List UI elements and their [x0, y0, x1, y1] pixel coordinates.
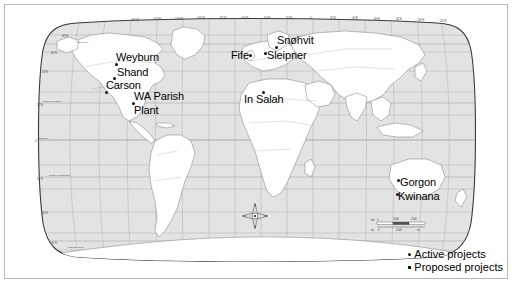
svg-text:1000: 1000	[396, 228, 402, 232]
map-svg[interactable]: 160°W 140°W 120°W 100°W 80°W 60°W 40°W 2…	[5, 5, 509, 280]
svg-text:2000: 2000	[411, 217, 417, 221]
svg-text:Arctic Circle: Arctic Circle	[75, 41, 89, 44]
svg-text:0°: 0°	[310, 16, 312, 20]
svg-text:40°W: 40°W	[264, 16, 271, 20]
world-map[interactable]: 160°W 140°W 120°W 100°W 80°W 60°W 40°W 2…	[5, 5, 509, 280]
active-project-marker-icon	[408, 253, 411, 256]
svg-text:20°S: 20°S	[37, 177, 43, 181]
site-label: Sleipner	[267, 50, 307, 61]
svg-text:1000: 1000	[393, 217, 399, 221]
svg-text:Antarctic Circle: Antarctic Circle	[67, 246, 84, 249]
svg-text:40°E: 40°E	[352, 16, 358, 20]
site-dot[interactable]	[105, 91, 108, 94]
svg-text:60°E: 60°E	[374, 17, 380, 21]
svg-text:120°E: 120°E	[439, 19, 446, 23]
site-label: Gorgon	[400, 177, 436, 188]
svg-text:100°E: 100°E	[417, 18, 424, 22]
svg-text:60°S: 60°S	[51, 241, 57, 245]
svg-text:80°E: 80°E	[396, 17, 402, 21]
svg-text:Equator: Equator	[39, 137, 48, 140]
svg-text:Tropic of Cancer: Tropic of Cancer	[43, 100, 62, 103]
site-label: Plant	[134, 105, 159, 116]
svg-text:20°N: 20°N	[37, 103, 43, 107]
svg-text:80°W: 80°W	[220, 16, 227, 20]
site-label: Kwinana	[398, 191, 440, 202]
map-legend: Active projects Proposed projects	[408, 248, 503, 274]
site-label: WA Parish	[134, 91, 184, 102]
screenshot-root: 160°W 140°W 120°W 100°W 80°W 60°W 40°W 2…	[0, 0, 512, 283]
proposed-project-marker-icon	[408, 266, 411, 269]
svg-text:80°N: 80°N	[62, 34, 68, 38]
site-label: Snøhvit	[277, 35, 314, 46]
legend-label: Proposed projects	[414, 262, 503, 273]
site-dot[interactable]	[249, 54, 252, 57]
svg-text:mi: mi	[417, 228, 420, 232]
svg-text:60°N: 60°N	[51, 51, 57, 55]
svg-text:40°S: 40°S	[42, 211, 48, 215]
legend-label: Active projects	[414, 249, 486, 260]
svg-text:mi: mi	[371, 228, 374, 232]
site-label: In Salah	[244, 94, 284, 105]
legend-item-proposed[interactable]: Proposed projects	[408, 261, 503, 274]
svg-text:20°E: 20°E	[330, 16, 336, 20]
svg-text:40°N: 40°N	[42, 70, 48, 74]
svg-text:60°W: 60°W	[242, 16, 249, 20]
svg-text:120°W: 120°W	[175, 17, 183, 21]
svg-text:20°W: 20°W	[286, 16, 293, 20]
site-dot[interactable]	[275, 46, 278, 49]
map-frame: 160°W 140°W 120°W 100°W 80°W 60°W 40°W 2…	[4, 4, 508, 279]
svg-text:km: km	[371, 218, 374, 222]
svg-text:100°W: 100°W	[197, 16, 205, 20]
svg-text:160°W: 160°W	[131, 18, 139, 22]
site-label: Shand	[117, 67, 148, 78]
site-label: Fife	[231, 50, 249, 61]
site-label: Weyburn	[116, 52, 159, 63]
svg-text:0°: 0°	[35, 139, 37, 143]
svg-text:Tropic of Capricorn: Tropic of Capricorn	[49, 174, 71, 177]
legend-item-active[interactable]: Active projects	[408, 248, 503, 261]
svg-text:140°W: 140°W	[153, 17, 161, 21]
